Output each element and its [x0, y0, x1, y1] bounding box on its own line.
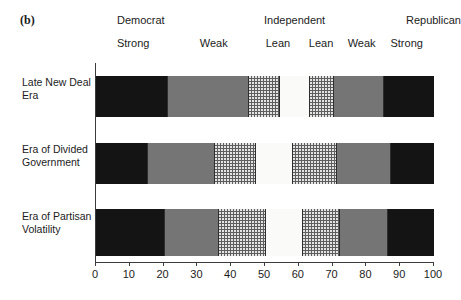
x-tick-mark-30	[196, 262, 197, 266]
row-label-0: Late New Deal Era	[22, 76, 94, 102]
bar-segment-strong-republican	[390, 143, 434, 184]
group-header-republican: Republican	[406, 14, 461, 26]
x-tick-label-10: 10	[123, 268, 135, 280]
bar-segment-lean-democrat	[214, 143, 255, 184]
x-tick-mark-60	[298, 262, 299, 266]
sub-header-0-strong: Strong	[117, 37, 149, 49]
x-tick-mark-100	[433, 262, 434, 266]
bar-segment-independent	[255, 143, 292, 184]
x-tick-mark-40	[230, 262, 231, 266]
bar-segment-independent	[265, 209, 302, 256]
plot-area: 0102030405060708090100	[95, 63, 433, 262]
row-label-2: Era of Partisan Volatility	[22, 210, 94, 236]
x-tick-label-60: 60	[292, 268, 304, 280]
x-tick-label-40: 40	[224, 268, 236, 280]
sub-header-5-strong: Strong	[390, 37, 422, 49]
bar-segment-lean-republican	[302, 209, 339, 256]
bar-segment-lean-republican	[292, 143, 336, 184]
x-tick-mark-80	[365, 262, 366, 266]
bar-segment-strong-democrat	[96, 143, 147, 184]
bar-segment-weak-republican	[339, 209, 386, 256]
bar-segment-strong-republican	[387, 209, 434, 256]
x-tick-mark-70	[332, 262, 333, 266]
bar-segment-weak-democrat	[167, 76, 248, 117]
bar-segment-lean-democrat	[248, 76, 278, 117]
x-tick-label-20: 20	[156, 268, 168, 280]
x-tick-mark-0	[95, 262, 96, 266]
x-tick-label-50: 50	[258, 268, 270, 280]
x-tick-mark-50	[264, 262, 265, 266]
bar-segment-weak-republican	[333, 76, 384, 117]
x-tick-label-80: 80	[359, 268, 371, 280]
x-tick-mark-20	[163, 262, 164, 266]
x-tick-mark-90	[399, 262, 400, 266]
bar-segment-independent	[279, 76, 309, 117]
bar-segment-strong-democrat	[96, 209, 164, 256]
x-tick-label-70: 70	[325, 268, 337, 280]
row-label-1: Era of Divided Government	[22, 143, 94, 169]
x-tick-label-100: 100	[424, 268, 442, 280]
bar-segment-lean-democrat	[218, 209, 265, 256]
bar-segment-weak-republican	[336, 143, 390, 184]
sub-header-1-weak: Weak	[200, 37, 228, 49]
x-tick-mark-10	[129, 262, 130, 266]
group-header-independent: Independent	[264, 14, 325, 26]
bar-segment-weak-democrat	[147, 143, 215, 184]
bar-segment-weak-democrat	[164, 209, 218, 256]
sub-header-2-lean: Lean	[266, 37, 290, 49]
sub-header-4-weak: Weak	[348, 37, 376, 49]
bar-row	[96, 209, 434, 256]
sub-header-3-lean: Lean	[309, 37, 333, 49]
bar-segment-strong-democrat	[96, 76, 167, 117]
bar-segment-strong-republican	[383, 76, 434, 117]
panel-letter: (b)	[20, 13, 35, 28]
x-tick-label-90: 90	[393, 268, 405, 280]
x-tick-label-0: 0	[92, 268, 98, 280]
bar-row	[96, 143, 434, 184]
bar-row	[96, 76, 434, 117]
bar-segment-lean-republican	[309, 76, 333, 117]
x-tick-label-30: 30	[190, 268, 202, 280]
group-header-democrat: Democrat	[117, 14, 165, 26]
